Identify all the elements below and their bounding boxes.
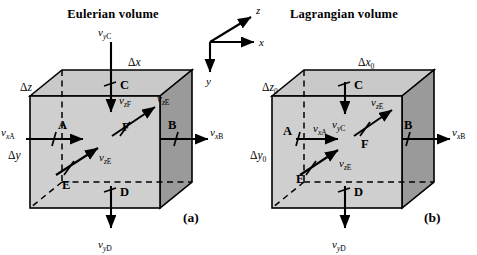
cube-a-point-C: C	[120, 78, 129, 92]
cube-b-point-B: B	[404, 118, 412, 132]
panel-a-title: Eulerian volume	[67, 7, 159, 21]
cube-b-delta-y0-label: Δy0	[250, 149, 267, 164]
axis-y-label: y	[205, 75, 211, 87]
cube-a-point-E: E	[62, 178, 70, 192]
cube-b-point-C: C	[354, 78, 363, 92]
diagram-canvas: Eulerian volume Lagrangian volume z x y …	[0, 0, 477, 255]
cube-a-delta-y-label: Δy	[8, 149, 21, 162]
panel-b-title: Lagrangian volume	[290, 7, 398, 21]
cube-b-delta-x0-label: Δx0	[358, 56, 375, 71]
cube-a-delta-x-label: Δx	[128, 56, 141, 68]
figure-root: Eulerian volume Lagrangian volume z x y …	[0, 0, 477, 255]
cube-a-point-A: A	[58, 118, 67, 132]
coordinate-axes: z x y	[205, 4, 264, 87]
axis-x-label: x	[258, 36, 264, 48]
cube-a-label-vyD: vyD	[98, 238, 112, 253]
cube-b-delta-z0-label: Δz0	[262, 81, 278, 96]
cube-a-label-vxA: vxA	[1, 126, 15, 141]
cube-a-point-B: B	[168, 118, 176, 132]
panel-a-caption: (a)	[183, 210, 199, 225]
axis-z-arrow	[210, 17, 251, 42]
axis-z-label: z	[255, 4, 261, 16]
cube-b-point-F: F	[361, 137, 369, 151]
cube-a-point-F: F	[122, 120, 130, 134]
cube-a-label-vxB: vxB	[210, 126, 223, 141]
cube-a-label-vyC: vyC	[98, 26, 111, 41]
cube-b-label-vxB: vxB	[452, 126, 465, 141]
cube-b-label-vyD: vyD	[332, 238, 346, 253]
cube-a-point-D: D	[120, 185, 129, 199]
cube-a-delta-z-label: Δz	[20, 81, 32, 93]
panel-b-caption: (b)	[424, 210, 441, 225]
cube-b-point-D: D	[354, 185, 363, 199]
cube-b-point-A: A	[283, 124, 292, 138]
cube-b-point-E: E	[296, 172, 304, 186]
